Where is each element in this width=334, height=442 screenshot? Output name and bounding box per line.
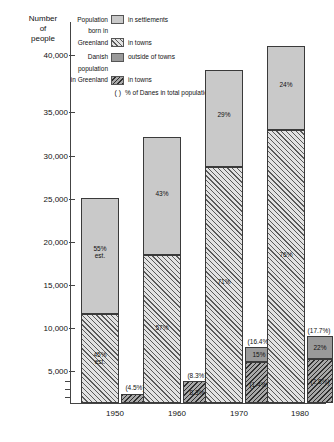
bar-1950-towns-label: 45% est. [82,351,118,365]
bar-1960-settlements: 43% [143,137,181,255]
legend-row-bornin: born in [58,26,278,37]
bar-1950-settlements: 55% est. [81,198,119,314]
legend-row-towns: Greenland in towns [58,37,278,48]
y-tick-20000: 20,000 [0,238,70,248]
bar-1970-towns-label: 71% [206,278,242,286]
y-tick-label-10000: 10,000 [44,324,70,334]
y-tick-dash-5000 [69,371,75,372]
bar-1970-settlements: 29% [205,70,243,167]
x-tick-label-1970: 1970 [205,409,273,419]
legend-note-paren: ( ) [58,89,125,97]
bar-1980-danish-towns: (2.8%) [307,359,333,403]
x-axis-line [70,403,326,404]
bar-1980-towns: 76% [267,130,305,403]
y-tick-40000: 40,000 [0,51,70,61]
y-tick-label-30000: 30,000 [44,152,70,162]
y-tick-label-5000: 5,000 [48,367,70,377]
legend-row-settlements: Population in settlements [58,14,278,25]
bar-1960-settlements-label: 43% [144,190,180,198]
y-tick-35000: 35,000 [0,108,70,118]
bar-1970-settlements-label: 29% [206,111,242,119]
x-tick-label-1980: 1980 [267,409,333,419]
population-bar-chart: Number of people Population in settlemen… [0,0,334,442]
bar-1960-towns: 57% [143,255,181,403]
legend-swatch-outside-towns [111,53,124,62]
legend-lead-2: born in [58,27,111,35]
legend-note-text: % of Danes in total population [125,89,211,97]
legend-lead-6: in Greenland [58,76,111,84]
legend-swatch-danish-towns [111,76,124,85]
bar-1970-towns: 71% [205,167,243,403]
y-tick-5000: 5,000 [0,367,70,377]
legend-lead-1: Population [58,16,111,24]
legend-label-outside-towns: outside of towns [124,53,175,61]
bar-1980-danish-outside-label: 22% [308,344,332,352]
bar-1980-danish-towns-label: (2.8%) [308,378,332,386]
y-tick-10000: 10,000 [0,324,70,334]
y-tick-label-40000: 40,000 [44,51,70,61]
legend-label-danish-towns: in towns [124,76,152,84]
bar-1980-danish-outside: 22% [307,336,333,359]
chart-legend: Population in settlements born in Greenl… [58,14,278,99]
bar-1980-danes-share-label: (17.7%) [303,327,334,335]
x-tick-label-1960: 1960 [143,409,211,419]
legend-row-danish-towns: in Greenland in towns [58,75,278,86]
x-tick-label-1950: 1950 [81,409,149,419]
y-tick-label-25000: 25,000 [44,195,70,205]
legend-swatch-towns [111,38,124,47]
y-tick-dash-15000 [69,285,75,286]
minor-tick-3 [65,397,71,398]
y-tick-label-20000: 20,000 [44,238,70,248]
legend-label-towns: in towns [124,39,152,47]
y-tick-dash-30000 [69,156,75,157]
legend-note: ( ) % of Danes in total population [58,88,278,99]
y-tick-dash-40000 [69,55,75,56]
legend-lead-3: Greenland [58,39,111,47]
minor-tick-2 [65,389,71,390]
legend-swatch-settlements [111,15,124,24]
legend-row-population: population [58,63,278,74]
y-tick-dash-10000 [69,328,75,329]
y-tick-30000: 30,000 [0,152,70,162]
bar-1960-towns-label: 57% [144,324,180,332]
bar-1980-settlements: 24% [267,46,305,130]
bar-1980-settlements-label: 24% [268,81,304,89]
bar-1950-towns: 45% est. [81,314,119,403]
y-tick-25000: 25,000 [0,195,70,205]
y-axis-line [70,22,71,403]
y-tick-label-15000: 15,000 [44,281,70,291]
y-tick-dash-25000 [69,199,75,200]
y-tick-dash-35000 [69,112,75,113]
bar-1950-settlements-label: 55% est. [82,245,118,259]
y-tick-label-35000: 35,000 [44,108,70,118]
y-tick-15000: 15,000 [0,281,70,291]
minor-tick-1 [65,381,71,382]
legend-label-settlements: in settlements [124,16,168,24]
legend-lead-5: population [58,65,111,73]
legend-row-outside-towns: Danish outside of towns [58,52,278,63]
y-tick-dash-20000 [69,242,75,243]
bar-1980-towns-label: 76% [268,251,304,259]
